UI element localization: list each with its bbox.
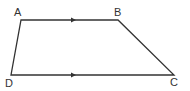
parallel-arrow-icon-bottom bbox=[71, 73, 76, 78]
trapezium-diagram: A B C D bbox=[0, 0, 190, 91]
vertex-label-b: B bbox=[114, 6, 121, 18]
parallel-arrow-icon-top bbox=[71, 18, 76, 23]
vertex-label-a: A bbox=[14, 6, 22, 18]
vertex-label-c: C bbox=[170, 76, 178, 88]
trapezium-outline bbox=[11, 20, 174, 75]
vertex-label-d: D bbox=[5, 77, 13, 89]
